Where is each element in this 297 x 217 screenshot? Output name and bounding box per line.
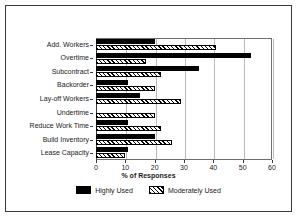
x-tick-mark — [155, 160, 156, 163]
bar-highly-used — [96, 93, 140, 98]
x-tick-mark — [243, 160, 244, 163]
bar-moderately-used — [96, 59, 146, 64]
bar-highly-used — [96, 53, 251, 58]
x-tick-label: 60 — [268, 164, 276, 171]
category-label: Reduce Work Time — [30, 122, 89, 130]
category-label: Add. Workers — [47, 41, 89, 49]
x-tick-mark — [213, 160, 214, 163]
x-tick-label: 50 — [239, 164, 247, 171]
x-tick-label: 30 — [180, 164, 188, 171]
category-label: Overtime — [61, 54, 89, 62]
category-axis: Add. WorkersOvertimeSubcontractBackorder… — [0, 38, 93, 160]
x-tick-mark — [125, 160, 126, 163]
category-tick — [90, 85, 93, 86]
category-label: Subcontract — [52, 68, 89, 76]
chart-figure: Add. WorkersOvertimeSubcontractBackorder… — [0, 0, 297, 217]
bar-moderately-used — [96, 86, 155, 91]
category-label: Build Inventory — [43, 136, 89, 144]
x-tick-mark — [96, 160, 97, 163]
bar-rows — [96, 38, 272, 160]
category-tick — [90, 140, 93, 141]
category-label: Undertime — [57, 109, 89, 117]
x-tick-label: 0 — [94, 164, 98, 171]
bar-moderately-used — [96, 45, 216, 50]
bar-row — [96, 119, 272, 133]
legend-item: Highly Used — [76, 186, 133, 194]
category-tick — [90, 58, 93, 59]
bar-row — [96, 38, 272, 52]
bar-row — [96, 146, 272, 160]
bar-highly-used — [96, 80, 128, 85]
category-tick — [90, 126, 93, 127]
legend-swatch-hatch — [149, 186, 164, 194]
chart-legend: Highly UsedModerately Used — [0, 186, 297, 194]
bar-highly-used — [96, 66, 199, 71]
bar-row — [96, 65, 272, 79]
legend-label: Moderately Used — [168, 187, 221, 194]
bar-row — [96, 106, 272, 120]
plot-area-wrapper — [96, 38, 272, 160]
bar-row — [96, 79, 272, 93]
category-tick — [90, 45, 93, 46]
bar-highly-used — [96, 134, 155, 139]
bar-moderately-used — [96, 72, 161, 77]
bar-moderately-used — [96, 153, 125, 158]
x-axis-title: % of Responses — [0, 172, 297, 179]
x-tick-label: 10 — [121, 164, 129, 171]
x-tick-label: 40 — [209, 164, 217, 171]
category-tick — [90, 72, 93, 73]
category-label: Lay-off Workers — [40, 95, 89, 103]
x-tick-mark — [272, 160, 273, 163]
category-tick — [90, 99, 93, 100]
bar-moderately-used — [96, 126, 161, 131]
bar-highly-used — [96, 39, 155, 44]
category-label: Backorder — [57, 81, 89, 89]
legend-item: Moderately Used — [149, 186, 221, 194]
bar-row — [96, 133, 272, 147]
bar-highly-used — [96, 120, 128, 125]
category-tick — [90, 153, 93, 154]
bar-moderately-used — [96, 113, 155, 118]
bar-moderately-used — [96, 99, 181, 104]
legend-label: Highly Used — [95, 187, 133, 194]
category-label: Lease Capacity — [41, 149, 89, 157]
bar-row — [96, 92, 272, 106]
bar-row — [96, 52, 272, 66]
x-tick-label: 20 — [151, 164, 159, 171]
bar-moderately-used — [96, 140, 172, 145]
bar-highly-used — [96, 147, 128, 152]
gridline — [273, 39, 274, 159]
x-tick-mark — [184, 160, 185, 163]
legend-swatch-solid — [76, 186, 91, 194]
category-tick — [90, 113, 93, 114]
